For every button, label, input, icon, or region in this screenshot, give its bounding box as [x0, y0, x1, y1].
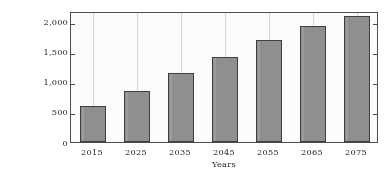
- bar-2065: [300, 26, 326, 142]
- x-tick-label-2035: 2035: [158, 147, 202, 157]
- y-tick-mark-right-500: [373, 114, 377, 115]
- y-tick-mark-left-500: [71, 114, 75, 115]
- y-axis-tick-labels: 05001,0001,5002,000: [20, 0, 68, 185]
- bar-2055: [256, 40, 282, 142]
- bar-2045: [212, 57, 238, 142]
- bar-chart-figure: Population aged 65+ (Million) 05001,0001…: [0, 0, 392, 185]
- bar-2075: [344, 16, 370, 142]
- x-tick-label-2075: 2075: [334, 147, 378, 157]
- x-tick-label-2015: 2015: [70, 147, 114, 157]
- y-tick-mark-left-2,000: [71, 24, 75, 25]
- x-axis-title: Years: [70, 159, 378, 169]
- y-tick-mark-left-1,000: [71, 84, 75, 85]
- y-tick-mark-right-2,000: [373, 24, 377, 25]
- plot-area: [70, 12, 378, 143]
- x-tick-label-2065: 2065: [290, 147, 334, 157]
- bar-2025: [124, 91, 150, 142]
- bar-2015: [80, 106, 106, 142]
- y-tick-label-1,500: 1,500: [20, 48, 68, 57]
- x-tick-label-2045: 2045: [202, 147, 246, 157]
- y-tick-label-2,000: 2,000: [20, 18, 68, 27]
- x-tick-label-2025: 2025: [114, 147, 158, 157]
- x-tick-label-2055: 2055: [246, 147, 290, 157]
- y-tick-label-0: 0: [20, 139, 68, 148]
- y-tick-mark-right-1,000: [373, 84, 377, 85]
- y-tick-mark-left-1,500: [71, 54, 75, 55]
- y-tick-mark-right-1,500: [373, 54, 377, 55]
- y-tick-label-500: 500: [20, 108, 68, 117]
- bar-2035: [168, 73, 194, 142]
- y-tick-label-1,000: 1,000: [20, 78, 68, 87]
- x-axis-tick-labels: 2015202520352045205520652075: [70, 147, 378, 159]
